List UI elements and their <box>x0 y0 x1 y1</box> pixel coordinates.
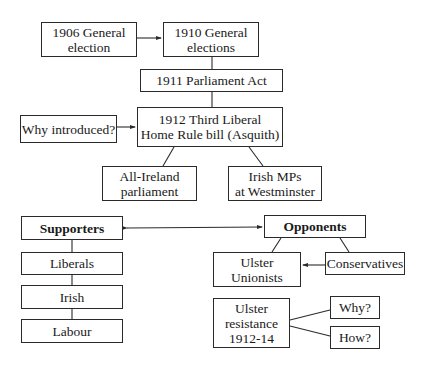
line-resistance-how <box>290 326 330 336</box>
arrow-supporters-opponents <box>127 227 262 228</box>
line-opponents-unionists <box>272 238 281 252</box>
node-ulster-resistance: Ulster resistance 1912-14 <box>213 298 290 348</box>
node-all-ireland-parliament: All-Ireland parliament <box>102 166 197 201</box>
line-resistance-why <box>290 310 330 320</box>
node-irish: Irish <box>21 285 123 309</box>
node-liberals: Liberals <box>21 252 123 275</box>
node-1910-general-elections: 1910 General elections <box>163 22 259 57</box>
line-1912-to-irish-mps <box>249 147 263 166</box>
node-ulster-unionists: Ulster Unionists <box>213 252 301 287</box>
node-how: How? <box>330 326 380 349</box>
node-supporters: Supporters <box>21 216 123 240</box>
node-1911-parliament-act: 1911 Parliament Act <box>140 69 283 92</box>
node-irish-mps-westminster: Irish MPs at Westminster <box>228 166 322 201</box>
line-1912-to-all-ireland <box>163 147 174 166</box>
node-opponents: Opponents <box>264 215 366 238</box>
node-conservatives: Conservatives <box>325 252 405 275</box>
node-why-introduced: Why introduced? <box>20 115 117 143</box>
line-opponents-conservatives <box>340 238 349 252</box>
node-why: Why? <box>330 296 380 319</box>
node-labour: Labour <box>21 319 123 343</box>
node-1912-home-rule-bill: 1912 Third Liberal Home Rule bill (Asqui… <box>137 107 283 147</box>
node-1906-general-election: 1906 General election <box>41 22 137 57</box>
